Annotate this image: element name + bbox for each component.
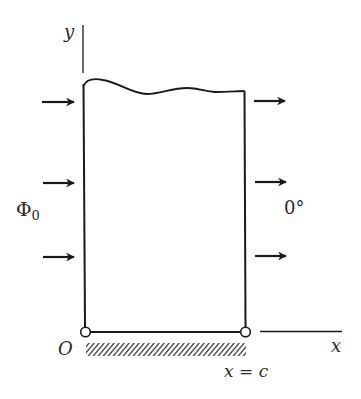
left-boundary-value: Φ0 xyxy=(16,198,40,223)
x-axis-label: x xyxy=(331,335,341,356)
right-flux-arrows xyxy=(254,101,286,256)
wavy-top-break xyxy=(84,79,245,94)
right-boundary-position: x = c xyxy=(224,361,269,381)
left-boundary xyxy=(84,84,86,327)
insulated-hatching xyxy=(86,343,246,356)
right-boundary xyxy=(245,91,246,327)
corner-node xyxy=(241,327,251,337)
origin-label: O xyxy=(58,338,73,359)
origin-node xyxy=(81,327,91,337)
y-axis-label: y xyxy=(63,21,75,42)
strip-diagram: y x O Φ0 0° x = c xyxy=(0,0,361,399)
right-boundary-value: 0° xyxy=(284,197,304,218)
left-flux-arrows xyxy=(42,102,74,257)
